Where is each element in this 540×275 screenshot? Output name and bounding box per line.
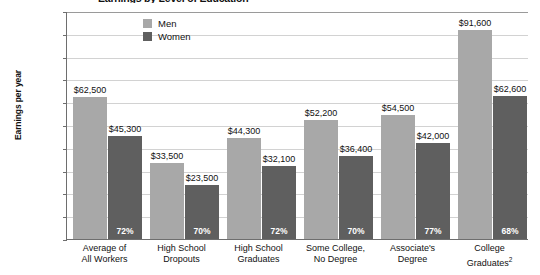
bar-group: $44,300$32,10072% (221, 12, 298, 239)
bar-men: $52,200 (304, 120, 338, 239)
bar-men: $91,600 (458, 30, 492, 239)
bar-value-label-women: $42,000 (417, 131, 450, 141)
bar-ratio-label: 70% (339, 226, 373, 236)
bar-women: $36,40070% (339, 156, 373, 239)
bar-ratio-label: 72% (108, 226, 142, 236)
plot-area: $100,000$90,000$80,000$70,000$60,000$50,… (66, 12, 528, 240)
bar-group: $62,500$45,30072% (67, 12, 144, 239)
bar-value-label-men: $33,500 (151, 151, 184, 161)
bar-value-label-women: $62,600 (494, 84, 527, 94)
bar-value-label-women: $45,300 (109, 124, 142, 134)
bar-men: $33,500 (150, 163, 184, 239)
category-footnote-marker: 2 (509, 256, 513, 263)
bar-value-label-women: $36,400 (340, 144, 373, 154)
bar-men: $62,500 (73, 97, 107, 240)
bar-women: $32,10072% (262, 166, 296, 239)
x-axis-category-label: Some College, No Degree (297, 243, 374, 265)
bar-ratio-label: 77% (416, 226, 450, 236)
x-axis-category-label: CollegeGraduates2 (451, 243, 528, 269)
bar-value-label-men: $91,600 (459, 18, 492, 28)
legend-item-women: Women (143, 30, 191, 43)
bar-women: $23,50070% (185, 185, 219, 239)
legend-swatch-women-icon (143, 32, 152, 41)
x-axis-category-label: High School Dropouts (143, 243, 220, 265)
bar-ratio-label: 70% (185, 226, 219, 236)
x-axis-category-label: Average of All Workers (66, 243, 143, 265)
legend-label-men: Men (158, 18, 176, 29)
y-axis-tick-mark (63, 240, 67, 241)
y-axis-title: Earnings per year (13, 35, 23, 175)
x-axis-category-label: High School Graduates (220, 243, 297, 265)
bar-men: $54,500 (381, 115, 415, 239)
bar-men: $44,300 (227, 138, 261, 239)
bar-value-label-men: $52,200 (305, 108, 338, 118)
chart-title: Earnings by Level of Education (98, 0, 438, 3)
legend-swatch-men-icon (143, 19, 152, 28)
bar-value-label-men: $62,500 (74, 85, 107, 95)
bar-group: $33,500$23,50070% (144, 12, 221, 239)
bar-ratio-label: 72% (262, 226, 296, 236)
legend-item-men: Men (143, 17, 191, 30)
bar-group: $54,500$42,00077% (375, 12, 452, 239)
earnings-by-education-chart: Earnings by Level of Education Earnings … (0, 0, 540, 275)
bar-value-label-women: $32,100 (263, 154, 296, 164)
bar-women: $45,30072% (108, 136, 142, 239)
bar-women: $62,60068% (493, 96, 527, 239)
bar-ratio-label: 68% (493, 226, 527, 236)
bar-value-label-women: $23,500 (186, 173, 219, 183)
bar-group: $52,200$36,40070% (298, 12, 375, 239)
x-axis-category-label: Associate's Degree (374, 243, 451, 265)
chart-legend: Men Women (143, 17, 191, 43)
bar-value-label-men: $44,300 (228, 126, 261, 136)
bar-women: $42,00077% (416, 143, 450, 239)
legend-label-women: Women (158, 31, 191, 42)
bar-group: $91,600$62,60068% (452, 12, 529, 239)
bar-value-label-men: $54,500 (382, 103, 415, 113)
